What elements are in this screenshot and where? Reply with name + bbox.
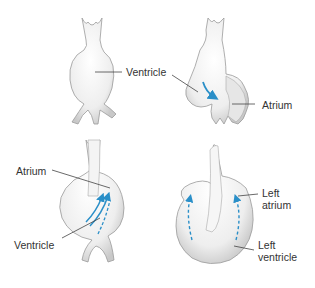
label-ventricle-panel-3: Ventricle <box>14 239 54 251</box>
label-left-ventricle-line1: Left <box>258 239 276 251</box>
label-atrium-panel-2: Atrium <box>262 99 292 111</box>
heart-development-diagram: Ventricle Atrium Atrium Ventricle Left a… <box>0 0 315 288</box>
label-atrium-panel-3: Atrium <box>16 165 46 177</box>
panel-3-heart <box>60 140 124 262</box>
label-left-atrium-line2: atrium <box>262 199 291 211</box>
panel-2-heart-loop <box>186 18 249 124</box>
label-left-atrium-line1: Left <box>262 187 280 199</box>
label-ventricle-panel-1: Ventricle <box>126 66 166 78</box>
panel-4-heart <box>176 145 253 264</box>
label-left-ventricle-line2: ventricle <box>258 251 297 263</box>
panel-1-heart-tube <box>70 18 116 124</box>
